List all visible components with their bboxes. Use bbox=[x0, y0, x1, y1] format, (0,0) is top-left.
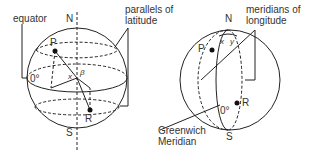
point-p-label-right: P bbox=[198, 43, 205, 54]
angle-x-label-right: x bbox=[219, 37, 225, 46]
point-r-right bbox=[235, 101, 240, 106]
p-projection bbox=[51, 78, 77, 88]
equator-back bbox=[27, 64, 127, 78]
meridians-leader-line bbox=[201, 30, 255, 80]
meridians-label-line1: meridians of bbox=[246, 4, 301, 15]
south-label-right: S bbox=[226, 131, 233, 142]
parallels-leader-top bbox=[115, 28, 128, 47]
point-r-left bbox=[88, 108, 93, 113]
south-label-left: S bbox=[66, 127, 73, 138]
angle-arc bbox=[219, 34, 237, 36]
point-p-right bbox=[210, 48, 215, 53]
zero-label-right: 0° bbox=[220, 105, 230, 116]
point-r-label-right: R bbox=[242, 97, 249, 108]
point-p-label-left: P bbox=[50, 37, 57, 48]
parallels-label-line1: parallels of bbox=[125, 4, 174, 15]
greenwich-label-line1: Greenwich bbox=[158, 125, 206, 136]
point-r-label-left: R bbox=[85, 113, 92, 124]
angle-y-label-right: y bbox=[229, 37, 235, 46]
earth-coordinates-diagram: equator N S parallels of latitude 0° P R… bbox=[0, 0, 314, 152]
p-drop bbox=[51, 51, 55, 88]
angle-beta-label: β bbox=[79, 68, 85, 77]
parallels-label-line2: latitude bbox=[125, 15, 158, 26]
point-p-left bbox=[53, 49, 58, 54]
zero-label-left: 0° bbox=[30, 73, 40, 84]
equator-label: equator bbox=[13, 13, 48, 24]
greenwich-label-line2: Meridian bbox=[158, 136, 196, 147]
north-label-left: N bbox=[66, 13, 73, 24]
north-label-right: N bbox=[225, 13, 232, 24]
meridians-label-line2: longitude bbox=[246, 15, 287, 26]
equator-leader bbox=[22, 24, 27, 78]
